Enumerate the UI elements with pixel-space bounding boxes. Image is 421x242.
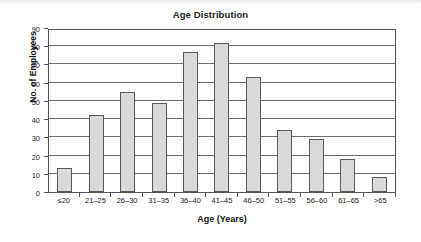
y-tick-label: 80 xyxy=(32,43,40,52)
bar-slot xyxy=(364,30,395,192)
x-tick-label: ≤20 xyxy=(48,196,80,205)
y-tick-label: 50 xyxy=(32,97,40,106)
x-tick-label: >65 xyxy=(364,196,396,205)
y-tick-label: 90 xyxy=(32,25,40,34)
bar-slot xyxy=(49,30,80,192)
bar xyxy=(246,77,261,192)
y-tick-label: 30 xyxy=(32,134,40,143)
y-tick-label: 20 xyxy=(32,152,40,161)
bar xyxy=(183,52,198,192)
bar xyxy=(152,103,167,192)
y-tick-label: 70 xyxy=(32,61,40,70)
bar xyxy=(277,130,292,192)
bar-slot xyxy=(332,30,363,192)
chart-title: Age Distribution xyxy=(0,9,421,20)
bar xyxy=(120,92,135,192)
plot-area xyxy=(48,29,396,193)
x-axis-tick-labels: ≤2021–2526–3031–3536–4041–4546–5051–5556… xyxy=(48,196,396,205)
x-tick-label: 26–30 xyxy=(111,196,143,205)
bar xyxy=(57,168,72,192)
bar xyxy=(340,159,355,192)
scan-artifact-band xyxy=(0,0,421,4)
bar-slot xyxy=(301,30,332,192)
x-tick-label: 36–40 xyxy=(175,196,207,205)
x-tick-label: 61–65 xyxy=(333,196,365,205)
bar-slot xyxy=(80,30,111,192)
age-distribution-chart: Age Distribution No. of Employees 908070… xyxy=(0,0,421,242)
y-tick-label: 10 xyxy=(32,170,40,179)
x-axis-title: Age (Years) xyxy=(48,214,396,224)
bar xyxy=(89,115,104,192)
bar-slot xyxy=(269,30,300,192)
bar-slot xyxy=(238,30,269,192)
bar-slot xyxy=(112,30,143,192)
x-tick-label: 46–50 xyxy=(238,196,270,205)
y-axis-tick-labels: 9080706050403020100 xyxy=(22,29,44,193)
x-tick-label: 41–45 xyxy=(206,196,238,205)
x-tick-label: 56–60 xyxy=(301,196,333,205)
x-tick-label: 31–35 xyxy=(143,196,175,205)
bar xyxy=(372,177,387,192)
y-tick-label: 40 xyxy=(32,116,40,125)
y-tick-label: 60 xyxy=(32,79,40,88)
bar xyxy=(309,139,324,192)
x-tick-label: 21–25 xyxy=(80,196,112,205)
y-tick-label: 0 xyxy=(36,189,40,198)
x-tick-label: 51–55 xyxy=(269,196,301,205)
bar xyxy=(214,43,229,192)
bar-slot xyxy=(143,30,174,192)
bars-container xyxy=(49,30,395,192)
bar-slot xyxy=(206,30,237,192)
bar-slot xyxy=(175,30,206,192)
